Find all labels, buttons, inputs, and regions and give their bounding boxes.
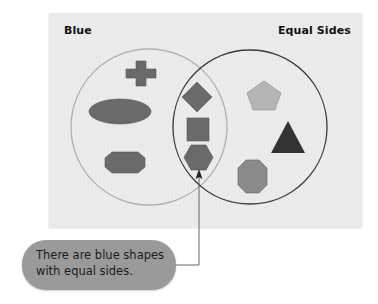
callout-text-line-2: with equal sides. <box>36 263 176 279</box>
callout-bubble: There are blue shapes with equal sides. <box>22 240 176 290</box>
ellipse-shape <box>89 99 151 124</box>
irregular-octagon-shape <box>105 152 145 173</box>
callout-connector-line <box>176 174 199 265</box>
callout-text: There are blue shapes with equal sides. <box>36 247 176 279</box>
cross-shape <box>126 61 156 86</box>
octagon-shape <box>238 160 267 193</box>
pentagon-shape <box>247 81 281 110</box>
hexagon-shape <box>184 145 213 170</box>
triangle-shape <box>271 121 305 153</box>
diamond-shape <box>182 82 212 112</box>
square-shape <box>187 118 209 141</box>
callout-text-line-1: There are blue shapes <box>36 247 176 263</box>
